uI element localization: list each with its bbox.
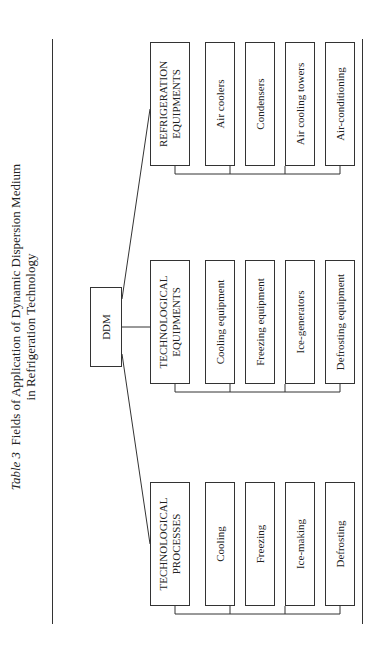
item-defrosting: Defrosting (325, 482, 355, 606)
item-air-cooling-towers: Air cooling towers (285, 42, 315, 166)
rotated-page: Table 3 Fields of Application of Dynamic… (0, 0, 384, 654)
header-label: TECHNOLOGICAL PROCESSES (157, 485, 183, 603)
header-technological-equipments: TECHNOLOGICAL EQUIPMENTS (150, 260, 190, 384)
item-label: Air coolers (214, 79, 227, 128)
item-defrosting-equipment: Defrosting equipment (325, 260, 355, 384)
item-cooling-equipment: Cooling equipment (205, 260, 235, 384)
item-label: Ice-making (294, 519, 307, 569)
item-freezing: Freezing (245, 482, 275, 606)
header-technological-processes: TECHNOLOGICAL PROCESSES (150, 482, 190, 606)
item-ice-making: Ice-making (285, 482, 315, 606)
item-air-coolers: Air coolers (205, 42, 235, 166)
item-label: Defrosting (334, 520, 347, 567)
header-label: TECHNOLOGICAL EQUIPMENTS (157, 263, 183, 381)
item-label: Air-conditioning (334, 67, 347, 141)
item-label: Freezing equipment (254, 278, 267, 366)
item-ice-generators: Ice-generators (285, 260, 315, 384)
item-freezing-equipment: Freezing equipment (245, 260, 275, 384)
item-label: Cooling (214, 526, 227, 561)
item-label: Defrosting equipment (334, 274, 347, 370)
item-label: Air cooling towers (294, 63, 307, 145)
item-label: Cooling equipment (214, 280, 227, 365)
header-refrigeration-equipments: REFRIGERATION EQUIPMENTS (150, 42, 190, 166)
root-label: DDM (100, 314, 113, 340)
item-label: Condensers (254, 78, 267, 129)
item-label: Freezing (254, 525, 267, 563)
item-label: Ice-generators (294, 291, 307, 354)
item-cooling: Cooling (205, 482, 235, 606)
item-air-conditioning: Air-conditioning (325, 42, 355, 166)
root-node-ddm: DDM (90, 287, 122, 367)
header-label: REFRIGERATION EQUIPMENTS (157, 45, 183, 163)
item-condensers: Condensers (245, 42, 275, 166)
